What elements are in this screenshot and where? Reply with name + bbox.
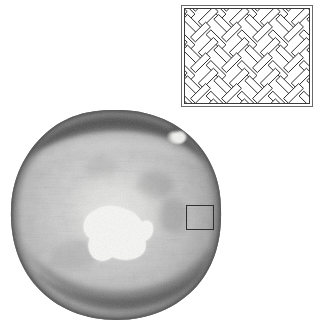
weave-pattern-inset bbox=[181, 5, 313, 107]
region-of-interest-box[interactable] bbox=[186, 205, 214, 230]
figure-panel bbox=[0, 0, 315, 325]
weave-pattern-svg bbox=[185, 9, 309, 103]
inset-inner-frame bbox=[184, 8, 310, 104]
